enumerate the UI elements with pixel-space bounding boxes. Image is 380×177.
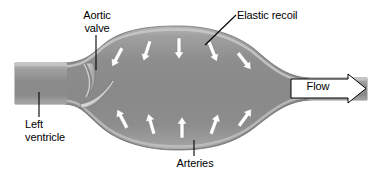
label-elastic-recoil: Elastic recoil bbox=[237, 9, 327, 22]
aortic-recoil-diagram: Aortic valve Elastic recoil Left ventric… bbox=[0, 0, 380, 177]
left-tube-shading bbox=[15, 63, 67, 104]
label-flow: Flow bbox=[296, 80, 340, 93]
label-left-ventricle: Left ventricle bbox=[25, 118, 105, 143]
label-arteries: Arteries bbox=[160, 157, 230, 170]
label-aortic-valve: Aortic valve bbox=[62, 9, 132, 34]
